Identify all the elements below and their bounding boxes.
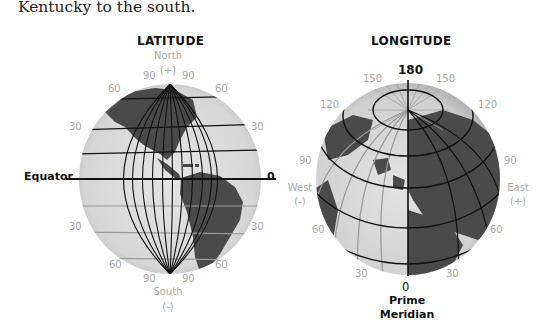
- north-label: North: [150, 50, 186, 61]
- east-label: East: [500, 182, 536, 193]
- tick-n90-left: 90: [143, 70, 156, 81]
- intro-text: Kentucky to the south.: [18, 0, 196, 16]
- prime-label: Prime: [385, 294, 429, 307]
- north-sign: (+): [156, 65, 180, 76]
- south-sign: (-): [156, 301, 180, 312]
- tick-w90: 90: [299, 155, 312, 166]
- west-sign: (-): [288, 196, 312, 207]
- south-label: South: [150, 286, 186, 297]
- latitude-title: LATITUDE: [137, 34, 204, 48]
- equator-extension: [66, 177, 276, 181]
- longitude-globe: [313, 80, 503, 276]
- meridian-label: Meridian: [378, 308, 436, 321]
- tick-e90: 90: [504, 155, 517, 166]
- east-sign: (+): [506, 196, 530, 207]
- meridian-180-label: 180: [398, 63, 423, 77]
- tick-n90-right: 90: [182, 70, 195, 81]
- longitude-title: LONGITUDE: [371, 34, 452, 48]
- meridian-0-label: 0: [402, 280, 409, 294]
